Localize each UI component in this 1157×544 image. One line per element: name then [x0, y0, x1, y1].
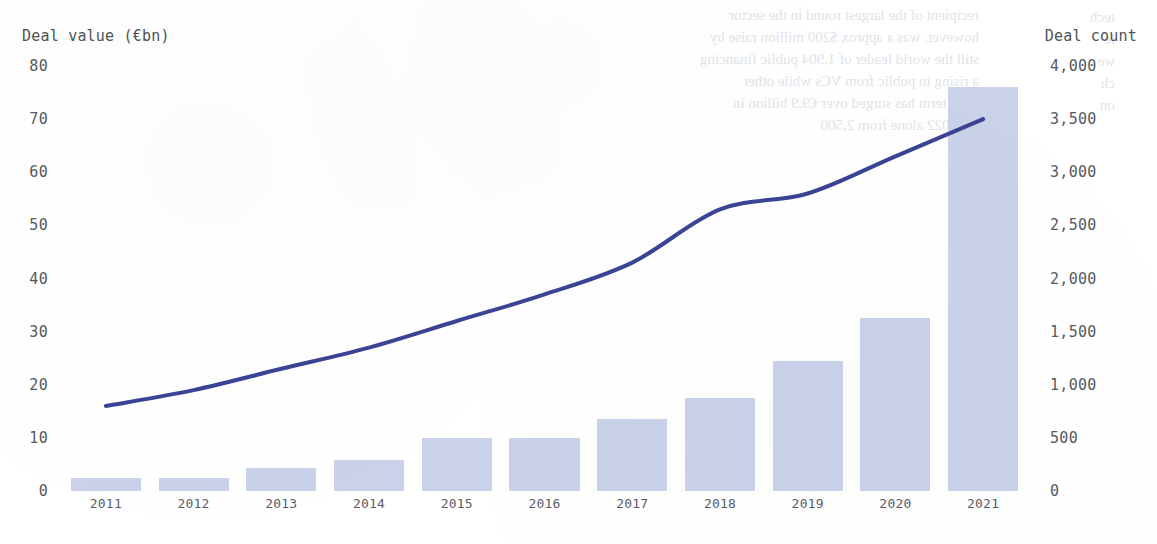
x-axis-label-2018: 2018: [704, 496, 736, 511]
right-axis-tick: 3,000: [1050, 163, 1097, 181]
left-axis-tick: 30: [29, 323, 48, 341]
left-axis-title: Deal value (€bn): [22, 27, 170, 45]
x-axis-label-2011: 2011: [90, 496, 122, 511]
right-axis-tick: 1,500: [1050, 323, 1097, 341]
x-axis-label-2013: 2013: [265, 496, 297, 511]
right-axis-title: Deal count: [1045, 27, 1137, 45]
right-axis-tick: 500: [1050, 429, 1078, 447]
x-axis-label-2015: 2015: [441, 496, 473, 511]
left-axis-tick: 40: [29, 270, 48, 288]
x-axis-tick-labels: 2011201220132014201520162017201820192020…: [62, 496, 1027, 518]
right-axis-tick: 0: [1050, 482, 1059, 500]
left-axis-tick: 50: [29, 216, 48, 234]
right-axis-tick: 2,500: [1050, 216, 1097, 234]
left-axis-tick: 20: [29, 376, 48, 394]
right-axis-tick: 3,500: [1050, 110, 1097, 128]
left-axis-tick: 60: [29, 163, 48, 181]
line-series-deal-count: [62, 66, 1027, 491]
combo-chart: Deal value (€bn) Deal count 010203040506…: [0, 0, 1157, 544]
left-axis-tick: 80: [29, 57, 48, 75]
left-axis-tick: 0: [39, 482, 48, 500]
right-axis-tick: 2,000: [1050, 270, 1097, 288]
x-axis-label-2016: 2016: [528, 496, 560, 511]
x-axis-label-2021: 2021: [967, 496, 999, 511]
right-axis-tick: 4,000: [1050, 57, 1097, 75]
left-axis-tick: 70: [29, 110, 48, 128]
x-axis-label-2019: 2019: [792, 496, 824, 511]
x-axis-label-2014: 2014: [353, 496, 385, 511]
right-axis-tick: 1,000: [1050, 376, 1097, 394]
left-axis-tick-labels: 01020304050607080: [0, 66, 56, 491]
plot-area: [62, 66, 1027, 491]
x-axis-label-2020: 2020: [879, 496, 911, 511]
right-axis-tick-labels: 05001,0001,5002,0002,5003,0003,5004,000: [1045, 66, 1155, 491]
x-axis-label-2017: 2017: [616, 496, 648, 511]
x-axis-label-2012: 2012: [178, 496, 210, 511]
left-axis-tick: 10: [29, 429, 48, 447]
deal-count-line-path: [106, 119, 983, 406]
